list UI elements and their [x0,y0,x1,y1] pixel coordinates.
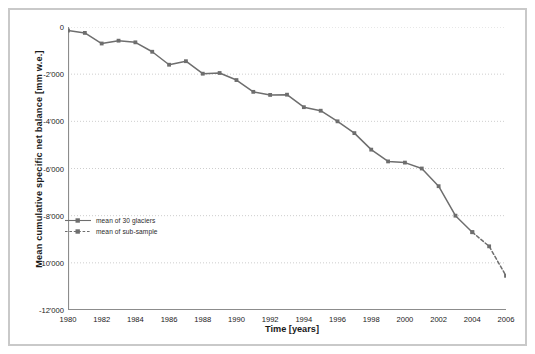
chart-legend: mean of 30 glaciers mean of sub-sample [64,215,158,237]
data-point-marker [352,131,356,135]
series-line-mean-of-sub-sample [472,232,506,276]
y-tick-label: -10'000 [39,258,64,267]
x-tick-label: 1990 [228,315,245,324]
data-point-marker [369,148,373,152]
legend-item: mean of 30 glaciers [64,215,158,226]
data-point-marker [133,40,137,44]
data-point-marker [83,31,87,35]
series-line-mean-of-30-glaciers [68,31,472,233]
x-tick-label: 2000 [396,315,413,324]
chart-figure: Mean cumulative specific net balance [mm… [12,12,523,342]
data-point-marker [302,105,306,109]
y-tick-label: 0 [60,23,64,32]
data-point-marker [150,50,154,54]
data-point-marker [184,59,188,63]
data-point-marker [504,274,506,278]
x-tick-label: 1984 [127,315,144,324]
y-axis-title: Mean cumulative specific net balance [mm… [34,29,44,289]
data-point-marker [201,72,205,76]
y-tick-label: -12'000 [39,306,64,315]
data-point-marker [319,109,323,113]
x-tick-label: 2002 [430,315,447,324]
y-tick-label: -4'000 [43,117,64,126]
data-point-marker [235,78,239,82]
legend-label-mean-of-sub-sample: mean of sub-sample [96,228,158,235]
data-point-marker [420,167,424,171]
y-tick-label: -2'000 [43,70,64,79]
chart-canvas [68,27,506,310]
data-point-marker [285,93,289,97]
x-tick-label: 2006 [498,315,515,324]
data-point-marker [117,39,121,43]
y-tick-label: -6'000 [43,164,64,173]
legend-swatch-dashed [64,227,92,236]
legend-item: mean of sub-sample [64,226,158,237]
data-point-marker [268,93,272,97]
x-tick-label: 1986 [161,315,178,324]
data-point-marker [251,90,255,94]
x-tick-label: 1998 [363,315,380,324]
data-point-marker [336,119,340,123]
data-point-marker [386,160,390,164]
x-tick-label: 1996 [329,315,346,324]
y-tick-label: -8'000 [43,211,64,220]
data-point-marker [470,230,474,234]
legend-swatch-solid [64,216,92,225]
figure-page: Mean cumulative specific net balance [mm… [0,0,535,354]
x-tick-label: 1982 [93,315,110,324]
data-point-marker [437,184,441,188]
data-point-marker [167,63,171,67]
data-point-marker [68,29,70,33]
data-point-marker [454,214,458,218]
x-tick-label: 1994 [295,315,312,324]
data-point-marker [487,244,491,248]
legend-label-mean-of-30-glaciers: mean of 30 glaciers [96,217,155,224]
x-tick-label: 2004 [464,315,481,324]
x-tick-label: 1988 [194,315,211,324]
data-point-marker [100,42,104,46]
x-tick-label: 1980 [60,315,77,324]
data-point-marker [403,161,407,165]
data-point-marker [218,71,222,75]
x-axis-title: Time [years] [72,324,512,334]
x-tick-label: 1992 [262,315,279,324]
plot-area: 0-2'000-4'000-6'000-8'000-10'000-12'0001… [68,27,506,310]
